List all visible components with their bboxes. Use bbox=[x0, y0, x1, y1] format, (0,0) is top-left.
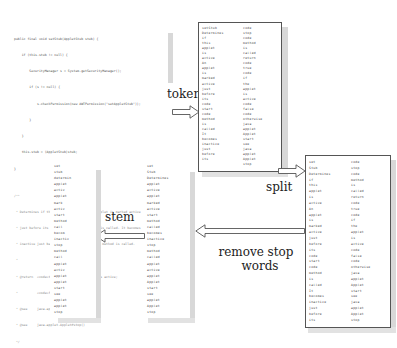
stemmed-panel-scrollbar bbox=[96, 170, 101, 320]
word-item: stop bbox=[54, 309, 71, 315]
code-line: public final void setStub(AppletStub stu… bbox=[14, 37, 174, 42]
code-line: this.stub = (AppletStub)stub; bbox=[14, 150, 174, 155]
token-column-2: codestopcodemethodiscalledreturncodetrue… bbox=[243, 26, 262, 167]
word-item: its bbox=[309, 318, 331, 324]
split-arrow-icon bbox=[278, 164, 306, 178]
stem-label: stem bbox=[105, 210, 134, 224]
tokenize-panel-shadow-bottom bbox=[202, 172, 288, 177]
remove-stop-words-arrow-icon bbox=[195, 224, 305, 238]
stopwords-removed-panel: setStubDeterminesappletactiveappletmarke… bbox=[143, 160, 195, 320]
code-line: if (this.stub != null) { bbox=[14, 53, 174, 58]
stemmed-words: setstubdeterminappletactivappletmarkacti… bbox=[54, 163, 71, 315]
tokenize-panel: setStubDeterminesifthisappletisactiveAna… bbox=[198, 22, 282, 172]
split-column-1: setStubDeterminesifthisappletisactiveAna… bbox=[309, 160, 331, 324]
stemmed-panel-shadow-bottom bbox=[58, 318, 101, 323]
stem-arrow-icon bbox=[95, 229, 145, 243]
code-line: } bbox=[14, 118, 174, 123]
word-item: stop bbox=[147, 309, 169, 315]
code-panel-scrollbar bbox=[168, 33, 173, 83]
token-column-1: setStubDeterminesifthisappletisactiveAna… bbox=[202, 26, 224, 162]
word-item: Determines bbox=[309, 172, 331, 178]
stopwords-panel-shadow-bottom bbox=[148, 318, 195, 323]
word-item: stop bbox=[243, 162, 262, 167]
remove-stop-words-label: remove stop words bbox=[216, 245, 296, 273]
code-line: if (s != null) { bbox=[14, 85, 174, 90]
source-code-panel: public final void setStub(AppletStub stu… bbox=[10, 22, 175, 150]
remove-stop-words-line2: words bbox=[216, 259, 296, 273]
split-panel: setStubDeterminesifthisappletisactiveAna… bbox=[305, 155, 391, 328]
split-column-2: codestopcodemethodiscalledreturncodetrue… bbox=[351, 160, 370, 324]
tokenize-panel-shadow bbox=[282, 27, 288, 177]
word-item: its bbox=[202, 157, 224, 162]
comment-line: * @see java.applet.Applet#stop() bbox=[14, 323, 174, 328]
tokenize-arrow-icon bbox=[172, 105, 200, 119]
comment-line: */ bbox=[14, 340, 174, 345]
filtered-words: setStubDeterminesappletactiveappletmarke… bbox=[147, 163, 169, 315]
stopwords-panel-scrollbar bbox=[190, 172, 195, 320]
code-line: SecurityManager s = System.getSecurityMa… bbox=[14, 69, 174, 74]
word-item: stop bbox=[351, 318, 370, 324]
code-line: } bbox=[14, 134, 174, 139]
split-label: split bbox=[266, 180, 292, 194]
remove-stop-words-line1: remove stop bbox=[216, 245, 296, 259]
code-line: s.checkPermission(new AWTPermission("set… bbox=[14, 102, 174, 107]
stemmed-panel: setstubdeterminappletactivappletmarkacti… bbox=[50, 160, 100, 320]
